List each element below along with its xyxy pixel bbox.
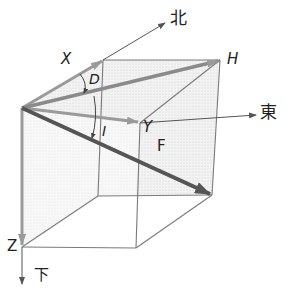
down-label: 下 [34,268,49,283]
north-label: 北 [170,10,187,27]
east-label: 東 [260,104,277,121]
declination-label: D [89,72,100,86]
z-label: Z [7,239,17,254]
y-label: Y [143,120,152,135]
x-label: X [61,52,71,67]
inclination-label: I [102,124,106,138]
field-components-diagram [0,0,293,299]
h-label: H [227,52,238,67]
north-axis [103,23,165,60]
f-label: F [157,139,166,154]
